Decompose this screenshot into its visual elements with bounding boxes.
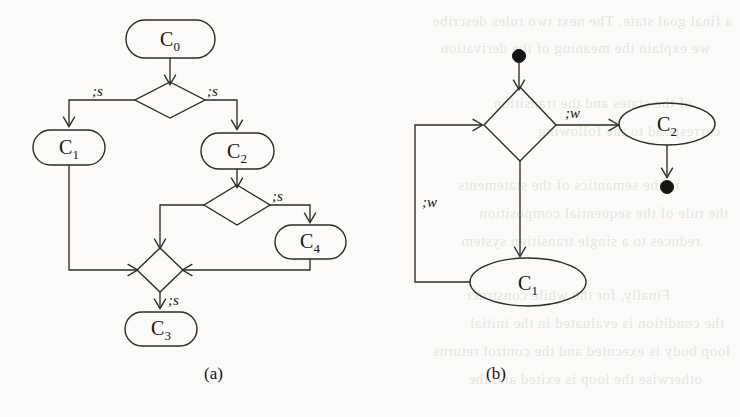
node-decision-1-shape — [135, 82, 205, 118]
edge-label-d1-left: ;s — [92, 83, 103, 99]
node-bc1[interactable]: C1 — [470, 258, 586, 306]
node-end-shape — [661, 181, 674, 194]
node-c4-label: C4 — [300, 230, 320, 256]
edge-label-loopback: ;w — [422, 194, 437, 210]
node-c3-label: C3 — [151, 317, 171, 343]
node-decision-2-shape — [204, 185, 270, 225]
node-c0-label: C0 — [160, 28, 180, 54]
edge-d1-to-c1 — [69, 100, 135, 126]
edge-c1-to-merge — [69, 165, 137, 270]
figure-canvas: C0 ;s ;s C1 C2 — [0, 0, 740, 417]
node-decision-2[interactable] — [204, 185, 270, 225]
node-decision-b[interactable] — [484, 87, 556, 161]
node-merge-diamond[interactable] — [137, 248, 183, 292]
edge-c4-to-merge — [183, 259, 310, 270]
node-c1-label: C1 — [59, 136, 79, 162]
node-bc2-label: C2 — [657, 113, 677, 139]
edge-d1-to-c2 — [205, 100, 237, 129]
edge-label-d2-right: ;s — [272, 188, 283, 204]
caption-a: (a) — [204, 364, 223, 384]
caption-b: (b) — [486, 364, 506, 384]
node-merge-diamond-shape — [137, 248, 183, 292]
node-c0[interactable]: C0 — [126, 20, 215, 58]
node-decision-1[interactable] — [135, 82, 205, 118]
node-start-shape — [513, 50, 526, 63]
edge-label-decision-right: ;w — [565, 105, 580, 121]
figure-page: a final goal state. The next two rules d… — [0, 0, 740, 417]
edge-d2-to-c4 — [270, 205, 310, 222]
node-start[interactable] — [513, 50, 526, 63]
node-c4[interactable]: C4 — [275, 225, 346, 259]
node-end[interactable] — [661, 181, 674, 194]
node-bc1-label: C1 — [518, 272, 538, 298]
diagram-b: ;w C2 C1 ;w — [415, 50, 715, 307]
node-decision-b-shape — [484, 87, 556, 161]
node-c2-label: C2 — [227, 140, 247, 166]
node-c3[interactable]: C3 — [125, 312, 197, 346]
node-bc2[interactable]: C2 — [619, 103, 715, 145]
diagram-a: C0 ;s ;s C1 C2 — [33, 20, 346, 346]
edge-d2-to-merge — [160, 205, 204, 248]
edge-label-d1-right: ;s — [207, 83, 218, 99]
node-c2[interactable]: C2 — [201, 133, 274, 169]
node-c1[interactable]: C1 — [33, 130, 105, 165]
edge-label-merge-out: ;s — [168, 292, 179, 308]
